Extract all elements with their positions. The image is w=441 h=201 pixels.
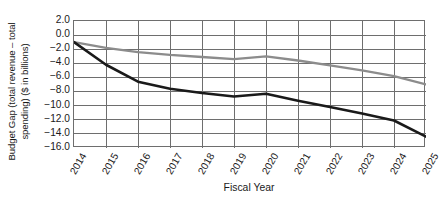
x-tick-label: 2016	[131, 151, 153, 177]
y-tick-label: −14.0	[44, 128, 70, 138]
x-tick-label: 2024	[387, 151, 409, 177]
series-line-black-line	[74, 42, 426, 137]
y-axis-title-line-1: Budget Gap (total revenue – total	[6, 22, 17, 160]
x-tick-label: 2021	[291, 151, 313, 177]
y-tick-label: −16.0	[44, 142, 70, 152]
x-tick-label: 2017	[163, 151, 185, 177]
x-tick-label: 2025	[419, 151, 441, 177]
x-tick-label: 2015	[99, 151, 121, 177]
series-lines	[74, 42, 426, 137]
plot-canvas	[74, 21, 426, 148]
y-tick-label: −12.0	[44, 114, 70, 124]
y-tick-label: −4.0	[50, 57, 70, 67]
y-tick-label: 0.0	[56, 29, 70, 39]
y-tick-label: −2.0	[50, 43, 70, 53]
x-tick-label: 2018	[195, 151, 217, 177]
grid-lines	[74, 21, 426, 148]
x-tick-label: 2023	[355, 151, 377, 177]
y-tick-label: −10.0	[44, 100, 70, 110]
x-tick-label: 2019	[227, 151, 249, 177]
plot-area	[73, 20, 425, 147]
y-tick-label: 2.0	[56, 15, 70, 25]
x-tick-label: 2022	[323, 151, 345, 177]
y-axis-tick-labels: 2.00.0−2.0−4.0−6.0−8.0−10.0−12.0−14.0−16…	[28, 0, 72, 201]
y-tick-label: −8.0	[50, 85, 70, 95]
x-axis-title: Fiscal Year	[73, 182, 425, 194]
y-tick-label: −6.0	[50, 71, 70, 81]
x-tick-label: 2020	[259, 151, 281, 177]
